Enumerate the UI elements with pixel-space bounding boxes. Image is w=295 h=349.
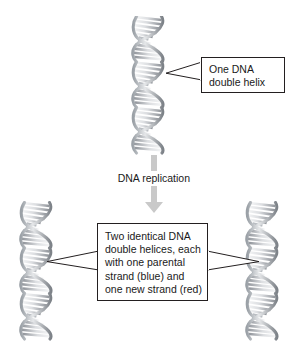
replication-label: DNA replication: [0, 172, 190, 185]
top-callout-pointer-icon: [165, 60, 205, 86]
bottom-callout-left-pointer-icon: [46, 249, 102, 275]
callout-box-daughter-helices: Two identical DNA double helices, each w…: [97, 223, 208, 301]
callout-top-text: One DNA double helix: [209, 63, 284, 89]
parent-dna-double-helix-icon: [131, 16, 167, 156]
dna-replication-figure: One DNA double helix DNA replication: [0, 0, 295, 349]
bottom-callout-right-pointer-icon: [204, 249, 260, 275]
callout-box-parent-helix: One DNA double helix: [201, 57, 285, 93]
callout-bottom-text: Two identical DNA double helices, each w…: [105, 230, 207, 296]
replication-arrow-upper-icon: [148, 155, 160, 171]
replication-arrow-down-icon: [143, 186, 165, 214]
